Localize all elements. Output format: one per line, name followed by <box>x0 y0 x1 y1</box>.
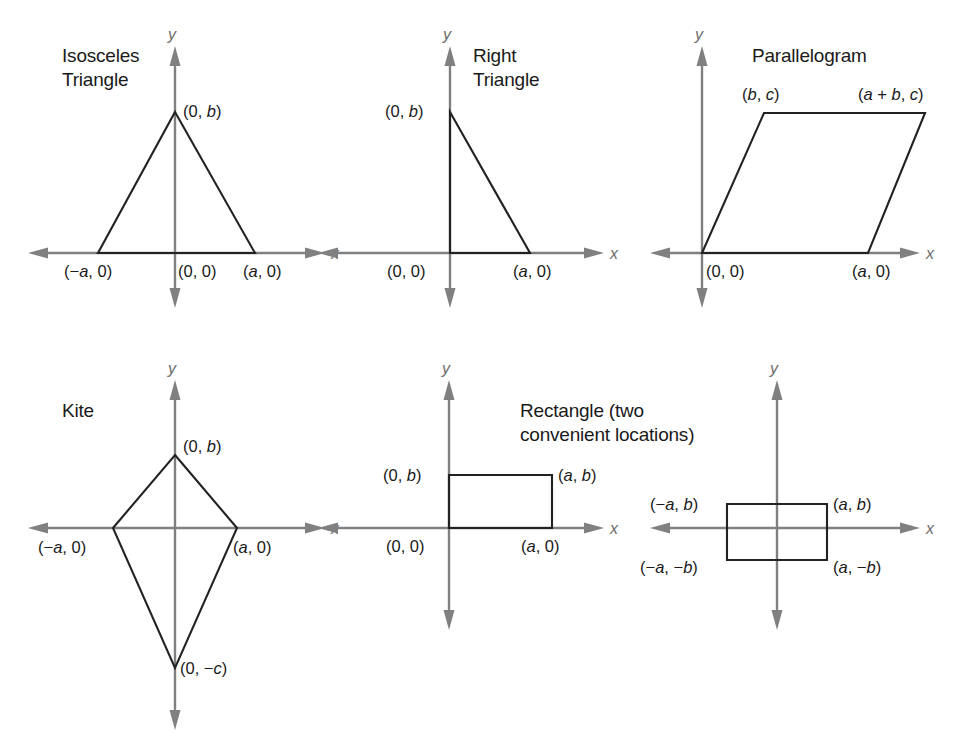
x-axis-arrow-left <box>318 248 338 259</box>
panel-title-line-2: Triangle <box>473 69 539 90</box>
vertex-label-apex: (0, b) <box>183 102 222 120</box>
isosceles-triangle-shape <box>98 112 255 253</box>
y-axis-arrow-down <box>170 710 181 730</box>
vertex-label-top-right: (a, b) <box>558 466 597 484</box>
vertex-label-right-base: (a, 0) <box>243 262 282 280</box>
y-axis-arrow-up <box>444 380 455 400</box>
origin-label: (0, 0) <box>386 537 425 555</box>
y-axis-label: y <box>769 360 779 377</box>
right-triangle-shape <box>450 112 530 253</box>
origin-label: (0, 0) <box>178 262 217 280</box>
vertex-label-bottom-right: (a, −b) <box>833 558 881 576</box>
y-axis-arrow-down <box>445 288 456 308</box>
geometry-figure-sheet: y x Isosceles Triangle (0, b) (−a, 0) (0… <box>0 0 964 753</box>
vertex-label-bottom: (0, −c) <box>180 659 227 677</box>
vertex-label-bottom-right: (a, 0) <box>852 262 891 280</box>
x-axis-arrow-right <box>900 523 920 534</box>
vertex-label-right: (a, 0) <box>233 538 272 556</box>
vertex-label-top: (0, b) <box>183 437 222 455</box>
vertex-label-top: (0, b) <box>385 102 424 120</box>
x-axis-label: x <box>925 520 935 537</box>
y-axis-arrow-up <box>445 46 456 66</box>
panel-title-line-1: Right <box>473 45 517 66</box>
origin-label: (0, 0) <box>387 262 426 280</box>
panel-title-line-2: convenient locations) <box>520 424 694 445</box>
y-axis-arrow-down <box>444 610 455 630</box>
x-axis-label: x <box>925 245 935 262</box>
vertex-label-top-left: (0, b) <box>383 466 422 484</box>
x-axis-arrow-left <box>650 523 670 534</box>
panel-rectangle-first-quadrant: y x Rectangle (two convenient locations)… <box>318 360 694 630</box>
panel-isosceles-triangle: y x Isosceles Triangle (0, b) (−a, 0) (0… <box>28 26 340 308</box>
panel-title-line-1: Isosceles <box>62 45 139 66</box>
y-axis-label: y <box>442 26 452 43</box>
x-axis-arrow-left <box>318 523 338 534</box>
vertex-label-right: (a, 0) <box>513 262 552 280</box>
x-axis-label: x <box>609 520 619 537</box>
y-axis-arrow-down <box>170 288 181 308</box>
x-axis-arrow-right <box>584 248 604 259</box>
y-axis-label: y <box>694 26 704 43</box>
panel-right-triangle: y x Right Triangle (0, b) (0, 0) (a, 0) <box>318 26 619 308</box>
vertex-label-top-right: (a + b, c) <box>858 85 924 103</box>
x-axis-arrow-right <box>900 248 920 259</box>
vertex-label-top-left: (b, c) <box>742 85 780 103</box>
parallelogram-shape <box>702 113 925 253</box>
panel-title-line-2: Triangle <box>62 69 128 90</box>
axes-right-triangle: y x <box>318 26 619 308</box>
axes-parallelogram: y x <box>650 26 935 308</box>
x-axis-arrow-left <box>650 248 670 259</box>
y-axis-label: y <box>441 360 451 377</box>
panel-parallelogram: y x Parallelogram (b, c) (a + b, c) (0, … <box>650 26 935 308</box>
vertex-label-top-left: (−a, b) <box>650 495 698 513</box>
panel-title: Kite <box>62 400 94 421</box>
y-axis-label: y <box>167 360 177 377</box>
vertex-label-bottom-left: (−a, −b) <box>640 558 698 576</box>
panel-title-line-1: Rectangle (two <box>520 400 644 421</box>
y-axis-arrow-up <box>170 46 181 66</box>
vertex-label-left-base: (−a, 0) <box>64 262 112 280</box>
x-axis-arrow-left <box>28 523 48 534</box>
vertex-label-left: (−a, 0) <box>38 538 86 556</box>
y-axis-arrow-down <box>697 288 708 308</box>
y-axis-arrow-up <box>772 380 783 400</box>
panel-rectangle-centered: y x (−a, b) (a, b) (−a, −b) (a, −b) <box>640 360 935 630</box>
rectangle-first-quadrant-shape <box>449 475 552 528</box>
panel-kite: y x Kite (0, b) (−a, 0) (a, 0) (0, −c) <box>28 360 340 730</box>
x-axis-label: x <box>609 245 619 262</box>
y-axis-arrow-up <box>697 46 708 66</box>
y-axis-label: y <box>167 26 177 43</box>
y-axis-arrow-up <box>170 380 181 400</box>
x-axis-arrow-left <box>28 248 48 259</box>
vertex-label-top-right: (a, b) <box>833 495 872 513</box>
origin-label: (0, 0) <box>706 262 745 280</box>
vertex-label-bottom-right: (a, 0) <box>521 537 560 555</box>
panel-title: Parallelogram <box>752 45 867 66</box>
x-axis-arrow-right <box>584 523 604 534</box>
y-axis-arrow-down <box>772 610 783 630</box>
